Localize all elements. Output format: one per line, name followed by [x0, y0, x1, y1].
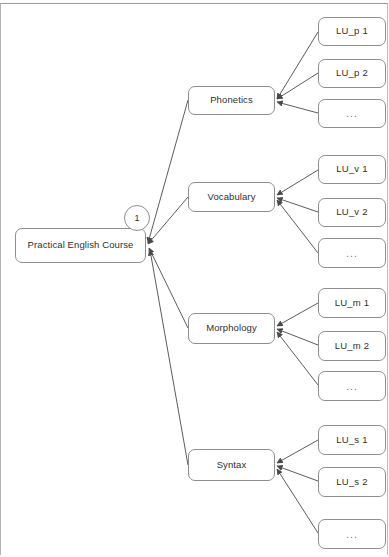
node-lu-v-more[interactable]: ... [318, 238, 386, 268]
node-lu-p-more[interactable]: ... [318, 99, 386, 128]
node-lu-s-1[interactable]: LU_s 1 [318, 425, 386, 455]
node-morphology[interactable]: Morphology [188, 313, 275, 344]
node-lu-s-more[interactable]: ... [318, 519, 386, 549]
node-lu-p-1[interactable]: LU_p 1 [318, 17, 386, 46]
node-lu-p-2[interactable]: LU_p 2 [318, 59, 386, 88]
node-lu-v-2[interactable]: LU_v 2 [318, 198, 386, 227]
node-syntax[interactable]: Syntax [188, 449, 275, 481]
edge-luv2-to-vocabulary [277, 198, 318, 212]
edge-morphology-to-root [149, 248, 188, 328]
edge-lum1-to-morphology [277, 303, 318, 326]
node-vocabulary[interactable]: Vocabulary [188, 182, 275, 212]
edge-lup3-to-phonetics [277, 102, 318, 113]
diagram-page: Practical English Course 1 Phonetics Voc… [0, 0, 389, 557]
edge-lum3-to-morphology [277, 332, 318, 385]
node-lu-m-more[interactable]: ... [318, 371, 386, 401]
edge-lup2-to-phonetics [277, 73, 318, 99]
node-phonetics[interactable]: Phonetics [188, 86, 275, 115]
edge-luv1-to-vocabulary [277, 170, 318, 195]
edge-lup1-to-phonetics [277, 32, 318, 99]
edge-phonetics-to-root [148, 100, 188, 243]
edge-lum2-to-morphology [277, 329, 318, 345]
edge-lus1-to-syntax [277, 440, 318, 463]
node-root[interactable]: Practical English Course [15, 228, 146, 263]
node-lu-m-1[interactable]: LU_m 1 [318, 288, 386, 318]
node-lu-m-2[interactable]: LU_m 2 [318, 331, 386, 361]
root-badge[interactable]: 1 [124, 205, 150, 231]
node-lu-v-1[interactable]: LU_v 1 [318, 155, 386, 184]
edge-luv3-to-vocabulary [277, 200, 318, 253]
node-lu-s-2[interactable]: LU_s 2 [318, 467, 386, 497]
edge-syntax-to-root [150, 250, 188, 465]
